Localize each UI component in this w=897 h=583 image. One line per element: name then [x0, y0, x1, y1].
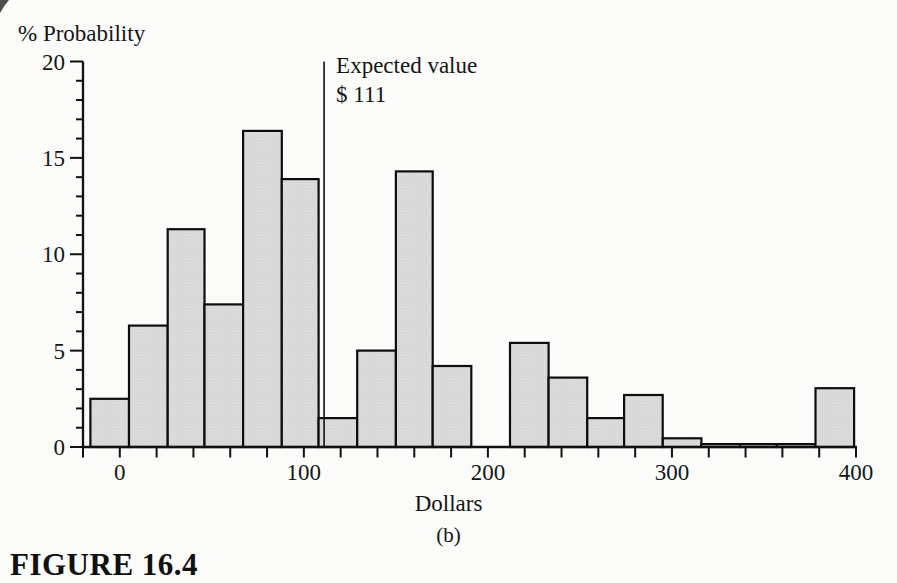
histogram-bar [396, 171, 433, 447]
histogram-bar [282, 179, 319, 447]
figure-label: FIGURE 16.4 [10, 547, 198, 583]
y-axis-title: % Probability [18, 21, 145, 47]
histogram-bar [168, 229, 205, 447]
expected-value-amount: $ 111 [336, 80, 477, 109]
figure-16-4-panel-b: 010020030040005101520 % Probability Expe… [0, 0, 897, 583]
y-tick-label: 5 [54, 339, 66, 364]
y-tick-label: 15 [42, 146, 65, 171]
y-tick-label: 0 [54, 435, 66, 460]
x-tick-label: 300 [655, 460, 690, 485]
expected-value-label: Expected value [336, 51, 477, 80]
x-tick-label: 0 [114, 460, 126, 485]
panel-caption: (b) [0, 523, 897, 548]
y-tick-label: 20 [42, 50, 65, 75]
histogram-bar [549, 378, 588, 447]
expected-value-annotation: Expected value $ 111 [336, 51, 477, 109]
x-tick-label: 200 [471, 460, 506, 485]
histogram-bar [510, 343, 549, 447]
x-tick-label: 100 [287, 460, 322, 485]
histogram-bar [663, 438, 702, 447]
histogram-bar [205, 304, 244, 447]
histogram-bar [624, 395, 663, 447]
bars-layer [90, 131, 854, 447]
histogram-bar [90, 399, 129, 447]
y-tick-label: 10 [42, 242, 65, 267]
histogram-bar [587, 418, 624, 447]
histogram-bar [357, 351, 396, 447]
x-axis-title: Dollars [0, 491, 897, 517]
histogram-bar [433, 366, 472, 447]
x-tick-label: 400 [839, 460, 874, 485]
histogram-bar [129, 326, 168, 447]
histogram-bar [243, 131, 282, 447]
histogram-bar [816, 388, 855, 447]
